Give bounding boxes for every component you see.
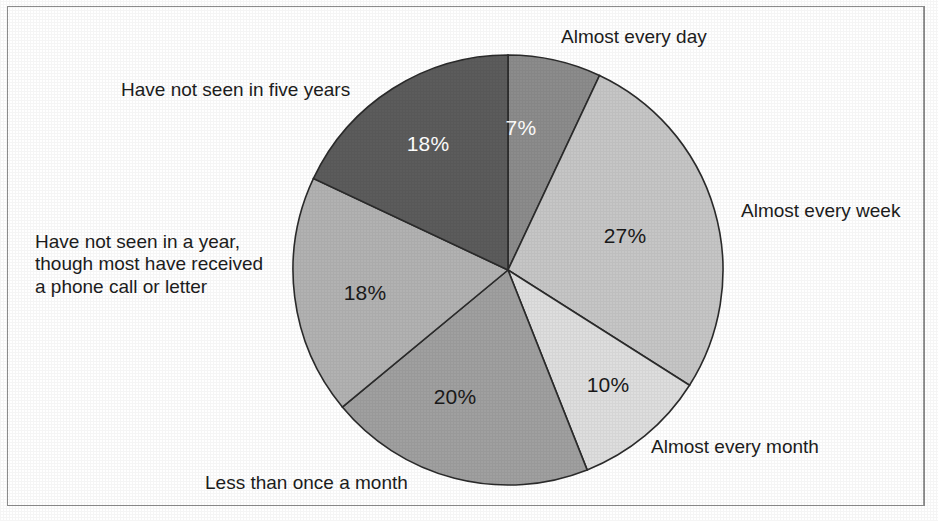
pie-chart-figure: 7% 27% 10% 20% 18% 18% Almost every day … [0,0,938,521]
category-label-almost-every-day: Almost every day [561,26,707,48]
slice-value-almost-every-day: 7% [506,116,537,140]
category-label-have-not-seen-in-five-years: Have not seen in five years [121,79,350,101]
slice-value-have-not-seen-in-a-year: 18% [344,281,387,305]
slice-value-have-not-seen-in-five-years: 18% [407,132,450,156]
category-label-have-not-seen-in-a-year: Have not seen in a year, though most hav… [35,231,263,298]
slice-value-almost-every-week: 27% [604,224,647,248]
category-label-almost-every-month: Almost every month [651,436,819,458]
category-label-almost-every-week: Almost every week [741,200,900,222]
slice-value-less-than-once-a-month: 20% [434,385,477,409]
slice-value-almost-every-month: 10% [587,373,630,397]
category-label-less-than-once-a-month: Less than once a month [205,472,408,494]
